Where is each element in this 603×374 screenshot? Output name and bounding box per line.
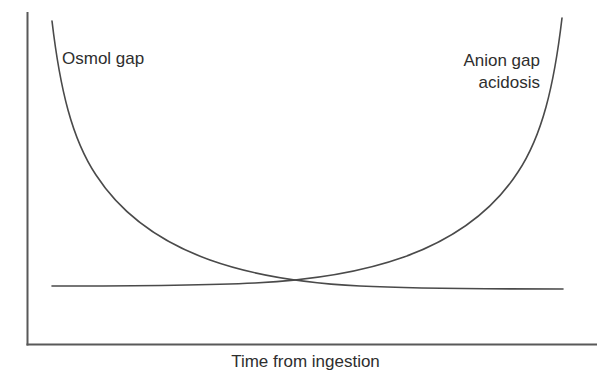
figure-container: Osmol gap Anion gapacidosis Time from in… xyxy=(0,0,603,374)
x-axis-label: Time from ingestion xyxy=(0,352,603,372)
x-axis-label-text: Time from ingestion xyxy=(231,352,380,371)
series-label-anion-gap-acidosis: Anion gapacidosis xyxy=(400,50,540,94)
series-label-anion-gap-line1: Anion gap xyxy=(463,51,540,70)
series-label-osmol-gap: Osmol gap xyxy=(62,48,144,70)
series-label-anion-gap-line2: acidosis xyxy=(400,72,540,94)
